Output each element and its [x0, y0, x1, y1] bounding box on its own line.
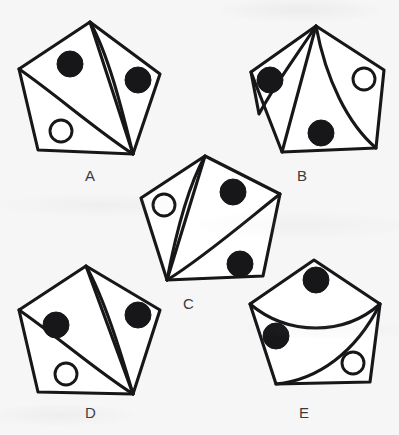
figure-d-white-circle-1	[55, 363, 77, 385]
figure-a-label: A	[85, 168, 96, 183]
figure-b[interactable]	[238, 22, 388, 162]
figure-c-label: C	[183, 296, 194, 311]
figure-b-black-circle-2	[308, 120, 334, 146]
figure-a-black-circle-1	[57, 51, 83, 77]
figure-b-white-circle-1	[353, 68, 375, 90]
figure-e-white-circle-1	[342, 352, 364, 374]
figure-b-label: B	[297, 168, 308, 183]
figure-a-white-circle-1	[50, 120, 72, 142]
figure-d-label: D	[85, 405, 96, 420]
figure-d-black-circle-1	[43, 312, 69, 338]
figure-a-black-circle-2	[125, 67, 151, 93]
figure-c-black-circle-1	[220, 179, 246, 205]
figure-e-black-circle-2	[263, 323, 289, 349]
figure-e[interactable]	[240, 256, 390, 396]
figure-c-white-circle-1	[153, 194, 175, 216]
figure-a[interactable]	[14, 18, 166, 160]
figure-e-label: E	[299, 405, 310, 420]
figure-b-black-circle-1	[257, 67, 283, 93]
puzzle-sheet: A B C D	[0, 0, 399, 435]
figure-d-pentagon	[19, 266, 160, 394]
figure-d-black-circle-2	[125, 302, 151, 328]
figure-e-black-circle-1	[303, 267, 329, 293]
figure-d[interactable]	[14, 262, 166, 404]
